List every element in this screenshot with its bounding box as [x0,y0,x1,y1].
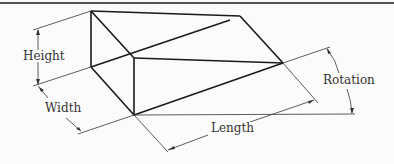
rotation-label: Rotation [322,74,376,86]
width-label: Width [44,102,82,114]
length-label: Length [210,122,255,134]
height-label: Height [22,50,66,62]
box-dimensions-diagram: Height Width Length Rotation [0,0,394,164]
box-outline [91,11,283,115]
